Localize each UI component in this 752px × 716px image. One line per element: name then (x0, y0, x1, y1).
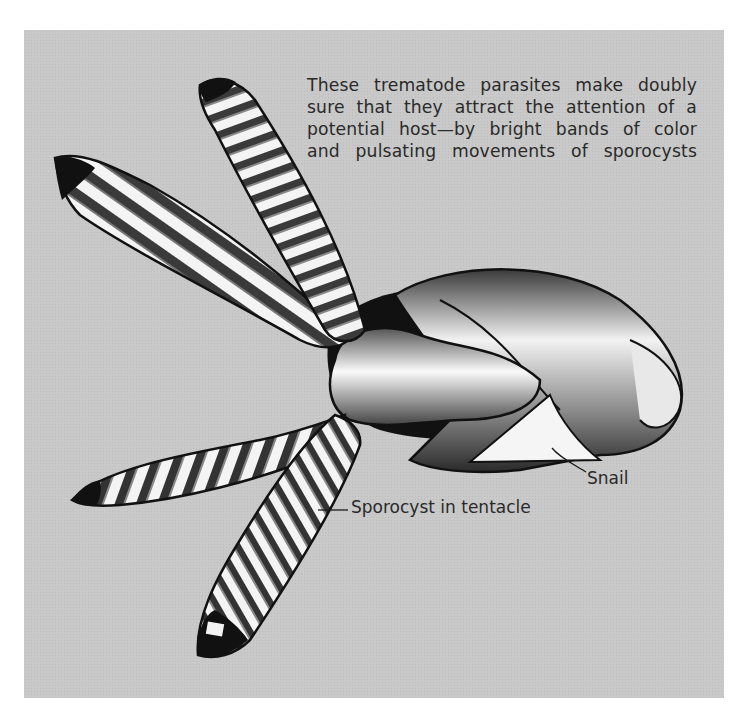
snail-label: Snail (587, 468, 628, 488)
caption-line-4: and pulsating movements of sporocysts (307, 140, 697, 162)
caption-line-1: These trematode parasites make doubly (307, 74, 697, 96)
sporocyst-label: Sporocyst in tentacle (351, 497, 531, 517)
figure-caption: These trematode parasites make doubly su… (307, 74, 697, 162)
caption-line-3: potential host—by bright bands of color (307, 118, 697, 140)
caption-line-2: sure that they attract the attention of … (307, 96, 697, 118)
